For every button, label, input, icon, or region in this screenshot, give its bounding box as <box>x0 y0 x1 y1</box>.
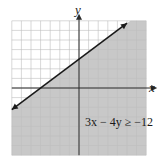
y-axis-label: y <box>75 3 81 16</box>
inequality-annotation: 3x − 4y ≥ −12 <box>85 116 153 128</box>
x-axis-label: x <box>149 81 155 94</box>
graph-canvas <box>0 0 160 164</box>
